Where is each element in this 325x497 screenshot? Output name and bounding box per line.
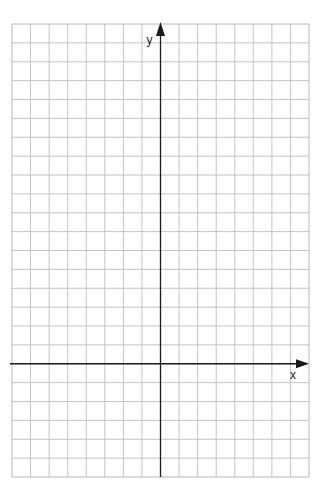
x-axis-label: x <box>290 369 296 381</box>
x-axis-arrowhead-icon <box>296 359 309 368</box>
coordinate-grid <box>0 0 325 497</box>
axes <box>10 22 309 477</box>
y-axis-label: y <box>147 34 153 46</box>
